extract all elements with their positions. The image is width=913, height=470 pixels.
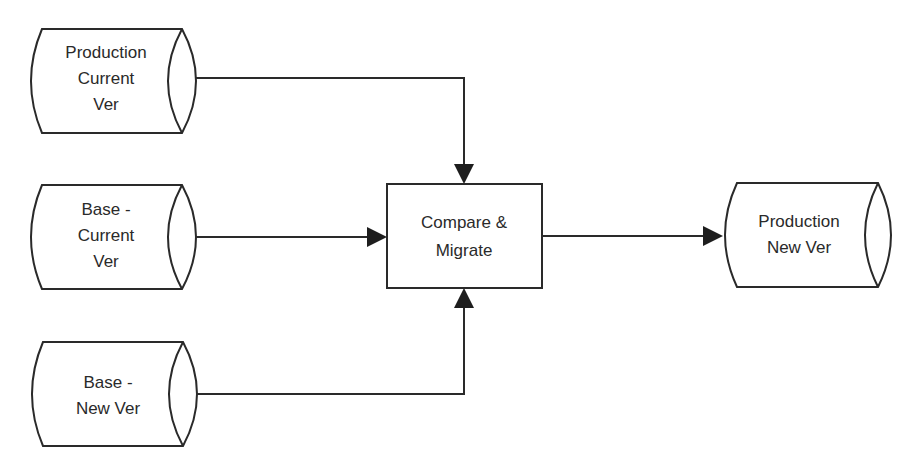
node-label-line: Ver <box>93 95 119 114</box>
node-label-line: Migrate <box>436 241 493 260</box>
node-base-current-ver[interactable]: Base - Current Ver <box>31 185 196 289</box>
node-label-line: Current <box>78 226 135 245</box>
node-label-line: Compare & <box>421 213 508 232</box>
edge-base-new-to-compare <box>196 288 474 394</box>
arrowhead-right-icon <box>703 226 723 246</box>
arrowhead-right-icon <box>367 227 387 247</box>
node-label-line: Base - <box>81 200 130 219</box>
edge-compare-to-production-new <box>542 226 723 246</box>
node-label-line: Production <box>758 212 839 231</box>
node-label-line: Ver <box>93 252 119 271</box>
process-box <box>387 184 542 288</box>
arrowhead-down-icon <box>454 164 474 184</box>
node-compare-and-migrate[interactable]: Compare & Migrate <box>387 184 542 288</box>
node-label-line: Base - <box>83 373 132 392</box>
node-production-current-ver[interactable]: Production Current Ver <box>31 29 196 133</box>
node-label-line: Current <box>78 69 135 88</box>
node-label-line: New Ver <box>767 238 832 257</box>
edge-production-current-to-compare <box>196 78 474 184</box>
arrowhead-up-icon <box>454 288 474 308</box>
flowchart-canvas: Production Current Ver Base - Current Ve… <box>0 0 913 470</box>
node-label-line: New Ver <box>76 399 141 418</box>
edge-base-current-to-compare <box>196 227 387 247</box>
node-base-new-ver[interactable]: Base - New Ver <box>32 342 197 446</box>
node-production-new-ver[interactable]: Production New Ver <box>725 183 891 287</box>
node-label-line: Production <box>65 43 146 62</box>
